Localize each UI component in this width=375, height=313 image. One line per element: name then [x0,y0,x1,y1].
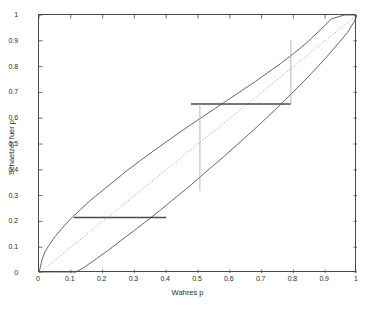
identity-line [39,15,357,273]
y-tick-label: 0 [14,269,18,276]
y-tick-label: 0.9 [9,36,18,43]
x-tick-label: 0.2 [97,275,106,282]
plot-canvas [39,15,357,273]
x-tick-label: 0.8 [288,275,297,282]
x-tick-label: 1 [354,275,358,282]
series-layer [39,15,357,273]
y-tick-label: 1 [14,11,18,18]
y-axis-title: Schaetzer fuer p [7,83,16,213]
x-tick-label: 0.7 [256,275,265,282]
x-tick-label: 0.3 [129,275,138,282]
y-tick-label: 0.8 [9,62,18,69]
x-tick-label: 0.6 [224,275,233,282]
plot-area [38,14,356,272]
x-axis-title: Wahres p [0,288,375,297]
x-tick-label: 0.9 [319,275,328,282]
x-tick-label: 0.1 [65,275,74,282]
x-tick-label: 0 [36,275,40,282]
x-tick-label: 0.5 [192,275,201,282]
chart-figure: 00.10.20.30.40.50.60.70.80.91 00.10.20.3… [0,0,375,313]
y-tick-label: 0.1 [9,243,18,250]
y-tick-label: 0.2 [9,217,18,224]
annotation-layer [74,40,291,218]
x-tick-label: 0.4 [160,275,169,282]
